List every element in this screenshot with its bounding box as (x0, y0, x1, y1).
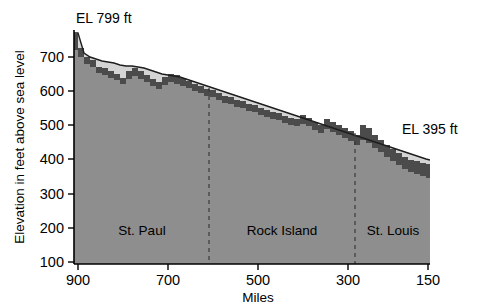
x-tick-label-900: 900 (66, 272, 90, 288)
x-tick-label-300: 300 (336, 272, 360, 288)
x-axis-title: Miles (242, 290, 274, 305)
y-tick-label-300: 300 (40, 186, 64, 202)
reach-label-st-louis: St. Louis (367, 223, 420, 238)
reach-label-st-paul: St. Paul (118, 223, 165, 238)
x-tick-label-700: 700 (156, 272, 180, 288)
y-tick-label-600: 600 (40, 83, 64, 99)
annotation-el-395: EL 395 ft (402, 121, 458, 137)
chart-canvas: 700 600 500 400 300 200 100 900 700 500 … (0, 0, 491, 307)
y-tick-label-400: 400 (40, 151, 64, 167)
y-axis-title: Elevation in feet above sea level (12, 50, 27, 244)
x-tick-label-500: 500 (246, 272, 270, 288)
y-tick-label-500: 500 (40, 117, 64, 133)
reach-label-rock-island: Rock Island (247, 223, 318, 238)
annotation-el-799: EL 799 ft (76, 10, 132, 26)
y-tick-label-700: 700 (40, 49, 64, 65)
x-tick-label-150: 150 (416, 272, 440, 288)
y-tick-label-200: 200 (40, 220, 64, 236)
y-tick-label-100: 100 (40, 254, 64, 270)
elevation-profile-figure: 700 600 500 400 300 200 100 900 700 500 … (0, 0, 491, 307)
